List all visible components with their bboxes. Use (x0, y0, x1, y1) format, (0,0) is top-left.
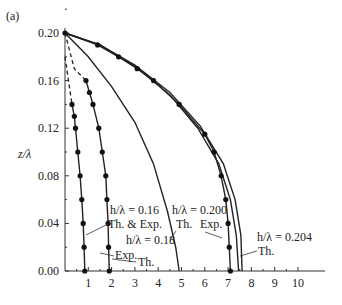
x-tick-label: 9 (272, 276, 278, 290)
data-point (226, 221, 231, 226)
y-tick-label: 0.04 (38, 216, 59, 230)
data-point (83, 78, 88, 83)
data-point (212, 149, 217, 154)
y-tick-label: 0.20 (38, 26, 59, 40)
data-point (177, 102, 182, 107)
data-point (228, 268, 233, 273)
annotation-th-exp: Th. & Exp. (108, 217, 162, 231)
data-point (90, 102, 95, 107)
data-point (107, 268, 112, 273)
data-point (75, 149, 80, 154)
annotation-0.204: h/λ = 0.204 (257, 230, 312, 244)
chart: 123456789100.000.040.080.120.160.20 (a) … (0, 0, 342, 305)
x-tick-label: 5 (179, 276, 185, 290)
y-tick-label: 0.00 (38, 264, 59, 278)
data-point (69, 102, 74, 107)
data-point (223, 197, 228, 202)
data-point (82, 268, 87, 273)
data-point (78, 173, 83, 178)
data-point (95, 42, 100, 47)
data-point (100, 149, 105, 154)
data-point (82, 245, 87, 250)
x-tick-label: 6 (202, 276, 208, 290)
annotation-th-200: Th. (176, 217, 192, 231)
annotation-0.16: h/λ = 0.16 (110, 203, 159, 217)
x-tick-label: 4 (155, 276, 161, 290)
x-tick-label: 8 (248, 276, 254, 290)
data-point (72, 114, 77, 119)
panel-label: (a) (6, 9, 19, 23)
x-tick-label: 10 (292, 276, 304, 290)
data-point (135, 66, 140, 71)
data-point (81, 221, 86, 226)
data-point (104, 197, 109, 202)
data-point (227, 245, 232, 250)
data-point (73, 126, 78, 131)
data-point (219, 173, 224, 178)
data-point (62, 30, 67, 35)
x-tick-label: 2 (109, 276, 115, 290)
annotation-th-018: Th. (138, 255, 154, 269)
y-axis-label: z/λ (17, 147, 31, 161)
data-point (79, 197, 84, 202)
x-tick-label: 3 (132, 276, 138, 290)
data-point (202, 132, 207, 137)
y-tick-label: 0.12 (38, 121, 59, 135)
data-point (151, 78, 156, 83)
annotation-exp-200: Exp. (200, 217, 222, 231)
annotation-0.18: h/λ = 0.18 (126, 233, 175, 247)
x-tick-label: 7 (225, 276, 231, 290)
data-point (96, 126, 101, 131)
data-point (103, 173, 108, 178)
data-point (106, 245, 111, 250)
data-point (116, 54, 121, 59)
y-tick-label: 0.16 (38, 74, 59, 88)
annotation-0.200: h/λ = 0.200 (172, 203, 227, 217)
x-tick-label: 1 (85, 276, 91, 290)
y-tick-label: 0.08 (38, 169, 59, 183)
annotation-th-204: Th. (258, 244, 274, 258)
data-point (87, 90, 92, 95)
